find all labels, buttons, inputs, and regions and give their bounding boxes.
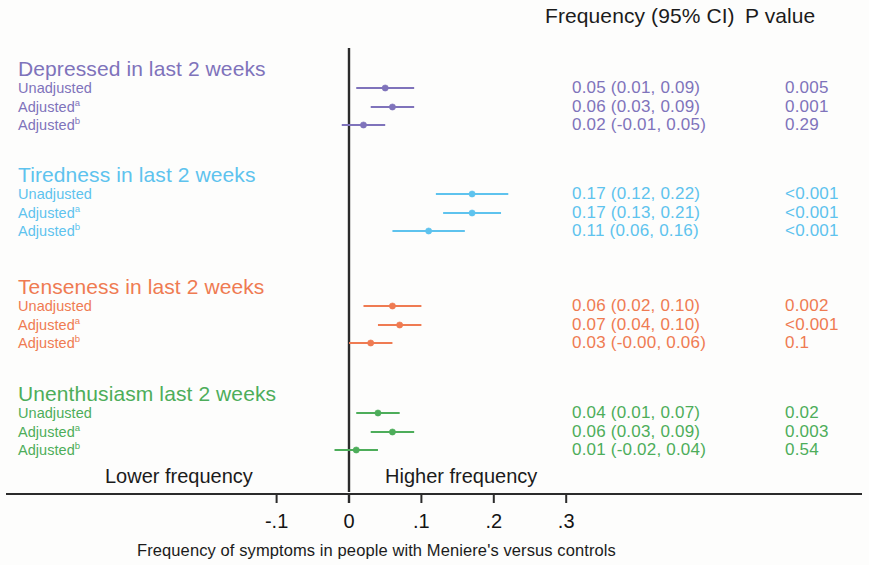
row-label-2-3: Adjustedb [18,224,80,239]
pvalue-text-1-3: 0.29 [785,116,819,133]
estimate-text-1-2: 0.06 (0.03, 0.09) [572,98,700,115]
point-estimate-4-2 [389,429,395,435]
row-label-2-1: Unadjusted [18,187,92,202]
row-label-1-3: Adjustedb [18,118,80,133]
estimate-text-2-2: 0.17 (0.13, 0.21) [572,204,700,221]
point-estimate-2-2 [469,210,475,216]
estimate-text-1-1: 0.05 (0.01, 0.09) [572,79,700,96]
point-estimate-2-1 [469,191,475,197]
x-tick-label-4: .2 [485,511,502,531]
group-title-3: Tenseness in last 2 weeks [18,276,264,297]
estimate-text-2-3: 0.11 (0.06, 0.16) [572,222,699,239]
estimate-text-2-1: 0.17 (0.12, 0.22) [572,185,700,202]
x-tick-label-2: 0 [343,511,354,531]
estimate-text-4-2: 0.06 (0.03, 0.09) [572,423,700,440]
estimate-text-3-3: 0.03 (-0.00, 0.06) [572,334,706,351]
group-title-2: Tiredness in last 2 weeks [18,164,256,185]
row-label-4-2: Adjusteda [18,425,80,440]
group-title-4: Unenthusiasm last 2 weeks [18,383,276,404]
forest-plot-figure: Frequency (95% CI) P value Depressed in … [0,0,869,565]
pvalue-text-2-1: <0.001 [785,185,839,202]
pvalue-text-4-3: 0.54 [785,441,819,458]
x-tick-label-1: -.1 [265,511,288,531]
point-estimate-4-3 [353,447,359,453]
row-label-2-2: Adjusteda [18,206,80,221]
axis-label-lower: Lower frequency [105,466,253,486]
pvalue-text-1-1: 0.005 [785,79,829,96]
point-estimate-3-3 [368,340,374,346]
row-label-4-1: Unadjusted [18,406,92,421]
group-title-1: Depressed in last 2 weeks [18,58,266,79]
pvalue-text-1-2: 0.001 [785,98,829,115]
row-label-1-2: Adjusteda [18,100,80,115]
axis-label-higher: Higher frequency [385,466,537,486]
row-label-1-1: Unadjusted [18,81,92,96]
row-label-3-3: Adjustedb [18,336,80,351]
pvalue-text-4-2: 0.003 [785,423,829,440]
point-estimate-1-1 [382,85,388,91]
axis-caption: Frequency of symptoms in people with Men… [137,542,616,559]
point-estimate-2-3 [426,228,432,234]
estimate-text-4-3: 0.01 (-0.02, 0.04) [572,441,706,458]
pvalue-text-3-3: 0.1 [785,334,809,351]
x-tick-label-5: .3 [558,511,575,531]
x-tick-label-3: .1 [413,511,430,531]
pvalue-text-4-1: 0.02 [785,404,819,421]
row-label-3-2: Adjusteda [18,318,80,333]
row-label-3-1: Unadjusted [18,299,92,314]
pvalue-text-3-2: <0.001 [785,316,839,333]
estimate-text-4-1: 0.04 (0.01, 0.07) [572,404,700,421]
point-estimate-3-2 [397,322,403,328]
point-estimate-4-1 [375,410,381,416]
estimate-text-1-3: 0.02 (-0.01, 0.05) [572,116,706,133]
point-estimate-1-2 [389,104,395,110]
pvalue-text-2-2: <0.001 [785,204,839,221]
row-label-4-3: Adjustedb [18,443,80,458]
pvalue-text-2-3: <0.001 [785,222,839,239]
point-estimate-1-3 [360,122,366,128]
estimate-text-3-2: 0.07 (0.04, 0.10) [572,316,700,333]
estimate-text-3-1: 0.06 (0.02, 0.10) [572,297,700,314]
pvalue-text-3-1: 0.002 [785,297,829,314]
point-estimate-3-1 [389,303,395,309]
